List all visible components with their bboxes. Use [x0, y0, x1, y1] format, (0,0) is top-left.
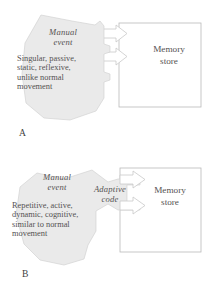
desc-b-line2: dynamic, cognitive,: [12, 210, 100, 219]
desc-b-line4: movement: [12, 229, 100, 238]
adaptive-code-label-b-line2: code: [86, 195, 134, 205]
manual-event-title-b-line2: event: [26, 183, 88, 193]
desc-a-line4: movement: [17, 82, 97, 91]
manual-event-title-b: Manual event: [26, 173, 88, 192]
panel-a: Manual event Singular, passive, static, …: [0, 0, 208, 149]
manual-event-description-b: Repetitive, active, dynamic, cognitive, …: [12, 201, 100, 239]
memory-store-label-a-line1: Memory: [138, 43, 200, 55]
panel-b: Manual event Repetitive, active, dynamic…: [0, 149, 208, 298]
desc-a-line3: unlike normal: [17, 73, 97, 82]
manual-event-title-a: Manual event: [31, 28, 95, 47]
manual-event-title-a-line2: event: [31, 38, 95, 48]
figure-container: Manual event Singular, passive, static, …: [0, 0, 208, 298]
desc-a-line2: static, reflexive,: [17, 63, 97, 72]
manual-event-description-a: Singular, passive, static, reflexive, un…: [17, 54, 97, 92]
panel-letter-b: B: [22, 269, 28, 280]
desc-b-line3: similar to normal: [12, 220, 100, 229]
memory-store-label-b-line2: store: [140, 196, 200, 208]
memory-store-label-a: Memory store: [138, 43, 200, 68]
adaptive-code-label-b: Adaptive code: [86, 185, 134, 204]
panel-letter-a: A: [19, 128, 26, 139]
desc-a-line1: Singular, passive,: [17, 54, 97, 63]
memory-store-label-b-line1: Memory: [140, 184, 200, 196]
memory-store-label-b: Memory store: [140, 184, 200, 209]
memory-store-label-a-line2: store: [138, 55, 200, 67]
